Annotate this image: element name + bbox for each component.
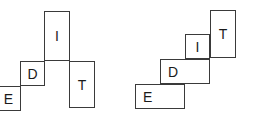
cell-e: E: [135, 84, 185, 109]
cell-label: D: [168, 65, 178, 79]
cell-label: T: [219, 27, 228, 41]
cell-t: T: [210, 10, 236, 58]
cell-i: I: [185, 34, 210, 59]
cell-d: D: [160, 59, 210, 84]
right-figure: EDIT: [0, 0, 254, 116]
cell-label: I: [196, 40, 200, 54]
diagram-canvas: EDIT EDIT: [0, 0, 254, 116]
cell-label: E: [143, 90, 152, 104]
